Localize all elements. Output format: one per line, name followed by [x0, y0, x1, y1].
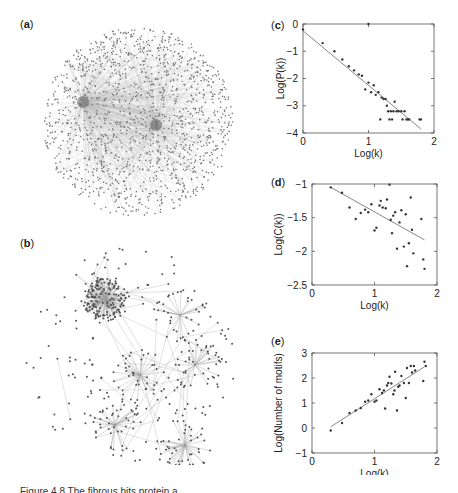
svg-text:Log(Number of motifs): Log(Number of motifs)	[273, 353, 284, 452]
svg-text:−4: −4	[287, 128, 299, 139]
svg-text:Log(k): Log(k)	[360, 300, 388, 311]
svg-text:0: 0	[301, 423, 307, 434]
svg-text:1: 1	[301, 398, 307, 409]
svg-text:2: 2	[434, 456, 440, 467]
svg-text:−2: −2	[296, 246, 308, 257]
dense-network-graph	[38, 22, 238, 222]
svg-text:0: 0	[309, 456, 315, 467]
svg-text:−2: −2	[287, 73, 299, 84]
panel-a-label: (a)	[20, 18, 33, 30]
svg-text:Log(k): Log(k)	[360, 468, 388, 475]
svg-text:Log(C(k)): Log(C(k))	[273, 213, 284, 255]
plot-frame	[312, 184, 437, 285]
plot-frame	[303, 24, 434, 133]
sparse-network-graph	[20, 245, 250, 465]
svg-text:Log(P(k)): Log(P(k))	[275, 58, 286, 100]
clustering-coefficient-chart: 012−1−1.5−2−2.5Log(k)Log(C(k))	[270, 165, 458, 315]
svg-text:Log(k): Log(k)	[354, 148, 382, 159]
svg-text:−2.5: −2.5	[287, 280, 307, 291]
svg-text:−3: −3	[287, 100, 299, 111]
svg-text:2: 2	[431, 136, 437, 147]
svg-text:2: 2	[301, 373, 307, 384]
svg-text:−1: −1	[287, 46, 299, 57]
svg-text:1: 1	[372, 288, 378, 299]
svg-text:3: 3	[301, 348, 307, 359]
plot-frame	[312, 353, 437, 453]
svg-text:0: 0	[309, 288, 315, 299]
svg-text:1: 1	[366, 136, 372, 147]
svg-text:−1: −1	[296, 179, 308, 190]
figure-caption: Figure 4.8 The fibrous bits protein a...	[20, 484, 450, 493]
svg-text:1: 1	[372, 456, 378, 467]
svg-text:0: 0	[300, 136, 306, 147]
svg-text:−1.5: −1.5	[287, 212, 307, 223]
motif-count-chart: 0123210−1Log(k)Log(Number of motifs)	[270, 315, 458, 475]
svg-text:2: 2	[434, 288, 440, 299]
degree-distribution-chart: 0120−1−2−3−4Log(k)Log(P(k))	[270, 0, 458, 165]
svg-text:−1: −1	[296, 448, 308, 459]
svg-text:0: 0	[292, 19, 298, 30]
